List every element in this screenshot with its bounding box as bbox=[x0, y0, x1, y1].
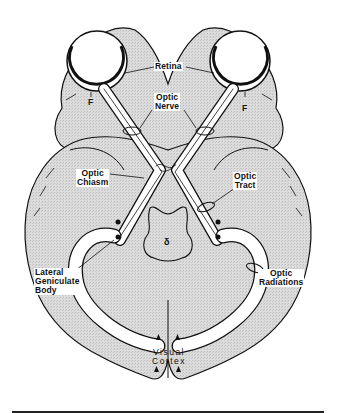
label-fovea-right: F bbox=[241, 104, 248, 113]
label-optic-tract: Optic Tract bbox=[233, 172, 257, 190]
label-optic-chiasm: Optic Chiasm bbox=[76, 169, 109, 187]
label-fovea-left: F bbox=[87, 98, 94, 107]
label-optic-radiations: Optic Radiations bbox=[258, 269, 304, 287]
brainstem bbox=[144, 207, 193, 261]
label-optic-nerve: Optic Nerve bbox=[154, 93, 180, 111]
label-brainstem-marker: δ bbox=[163, 238, 171, 247]
right-eye bbox=[210, 31, 270, 91]
label-lateral-geniculate-body: Lateral Geniculate Body bbox=[34, 268, 80, 295]
left-eye bbox=[67, 31, 127, 91]
label-retina: Retina bbox=[154, 62, 183, 71]
label-visual-cortex: Visual Cortex bbox=[151, 348, 187, 366]
